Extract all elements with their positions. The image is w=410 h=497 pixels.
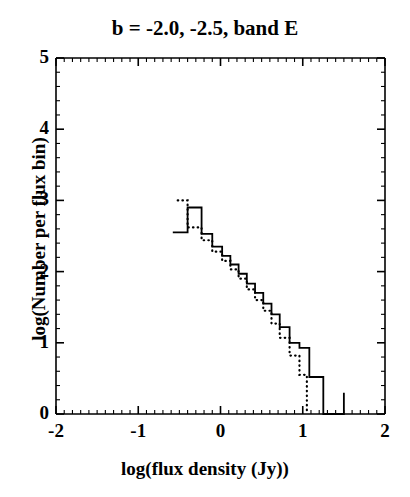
x-tick-label: 1 — [288, 420, 318, 442]
axes-frame — [56, 58, 385, 414]
x-tick-label: 2 — [370, 420, 400, 442]
series-path-0 — [173, 208, 344, 414]
y-axis-label: log(Number per flux bin) — [28, 59, 50, 419]
data-series-group — [173, 200, 344, 414]
x-tick-label: 0 — [206, 420, 236, 442]
x-tick-label: -1 — [123, 420, 153, 442]
series-path-1 — [178, 200, 307, 414]
x-axis-label: log(flux density (Jy)) — [0, 458, 410, 480]
figure-canvas: b = -2.0, -2.5, band E -2-1012012345 log… — [0, 0, 410, 497]
